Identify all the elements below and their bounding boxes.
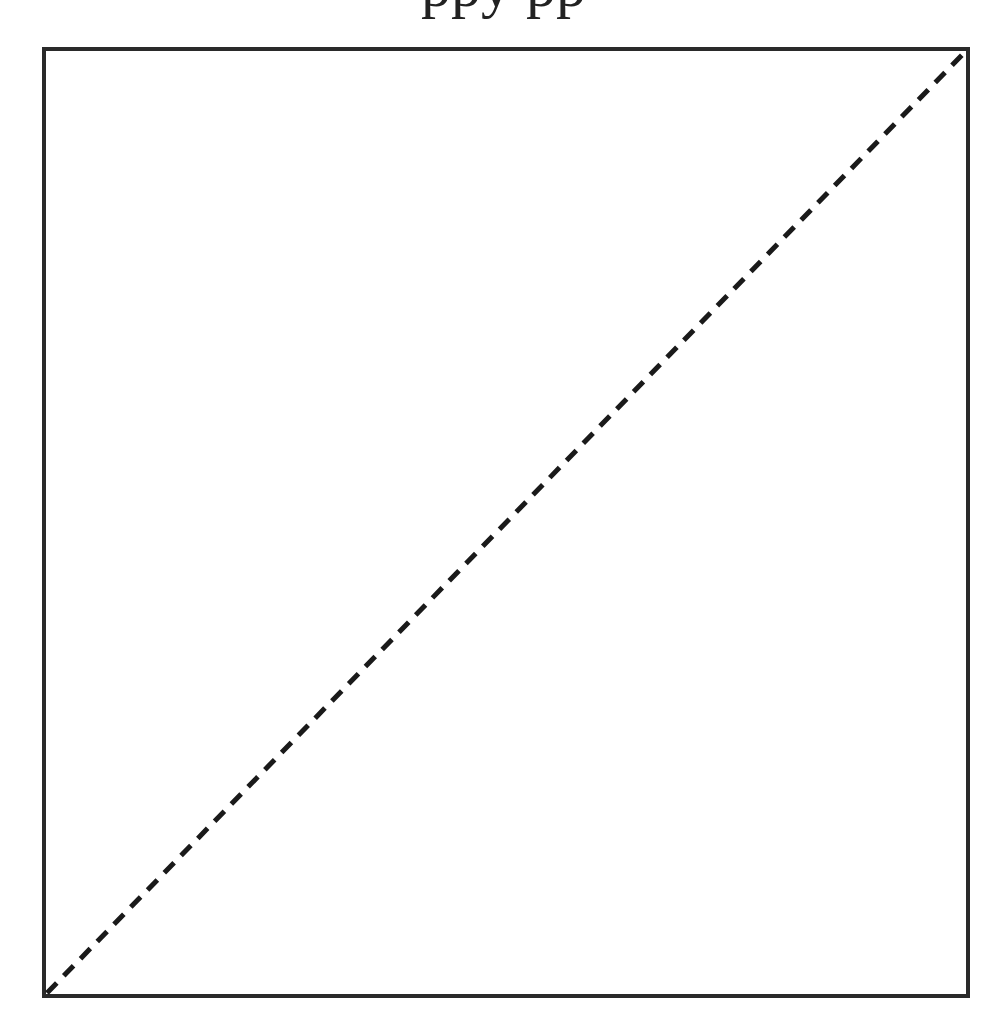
plot-area (0, 0, 1007, 1035)
